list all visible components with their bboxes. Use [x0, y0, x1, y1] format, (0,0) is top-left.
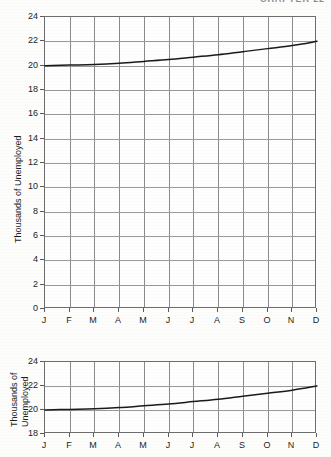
- y-axis-label-4: 4: [14, 255, 38, 264]
- y-axis-label-20: 20: [14, 61, 38, 70]
- x-axis-tick-mark: [242, 433, 243, 437]
- x-axis-tick-mark: [291, 433, 292, 437]
- x-axis-tick-mark: [316, 308, 317, 312]
- y-axis-label-14: 14: [14, 134, 38, 143]
- y-axis-label-12: 12: [14, 158, 38, 167]
- x-axis-label-a-3: A: [108, 316, 128, 325]
- data-curve: [45, 386, 317, 410]
- x-axis-label-s-8: S: [232, 316, 252, 325]
- y-axis-label-24: 24: [14, 12, 38, 21]
- x-axis-tick-mark: [69, 433, 70, 437]
- data-curve: [45, 41, 317, 65]
- x-axis-label-j-5: J: [158, 441, 178, 450]
- x-axis-label-m-4: M: [133, 316, 153, 325]
- x-axis-label-j-0: J: [34, 316, 54, 325]
- x-axis-tick-mark: [267, 308, 268, 312]
- x-axis-tick-mark: [93, 433, 94, 437]
- y-axis-tick-mark: [40, 186, 44, 187]
- y-axis-tick-mark: [40, 284, 44, 285]
- full-scale-chart: Thousands of Unemployed JFMAMJJASOND0246…: [0, 0, 331, 340]
- x-axis-label-d-11: D: [306, 316, 326, 325]
- x-axis-tick-mark: [168, 433, 169, 437]
- x-axis-tick-mark: [192, 308, 193, 312]
- x-axis-tick-mark: [44, 433, 45, 437]
- x-axis-tick-mark: [93, 308, 94, 312]
- plot-area-full: [44, 16, 316, 308]
- y-axis-tick-mark: [40, 162, 44, 163]
- x-axis-tick-mark: [69, 308, 70, 312]
- x-axis-tick-mark: [267, 433, 268, 437]
- y-axis-label-22: 22: [14, 381, 38, 390]
- x-axis-label-n-10: N: [281, 441, 301, 450]
- x-axis-tick-mark: [316, 433, 317, 437]
- series-line-unemployed: [45, 17, 317, 309]
- x-axis-tick-mark: [217, 308, 218, 312]
- y-axis-label-18: 18: [14, 85, 38, 94]
- y-axis-label-8: 8: [14, 207, 38, 216]
- y-axis-tick-mark: [40, 40, 44, 41]
- y-axis-label-0: 0: [14, 304, 38, 313]
- x-axis-tick-mark: [118, 308, 119, 312]
- x-axis-tick-mark: [143, 433, 144, 437]
- y-axis-label-24: 24: [14, 357, 38, 366]
- y-axis-tick-mark: [40, 409, 44, 410]
- y-axis-label-2: 2: [14, 280, 38, 289]
- y-axis-label-18: 18: [14, 429, 38, 438]
- y-axis-tick-mark: [40, 65, 44, 66]
- y-axis-tick-mark: [40, 235, 44, 236]
- x-axis-label-d-11: D: [306, 441, 326, 450]
- x-axis-tick-mark: [168, 308, 169, 312]
- plot-area-truncated: [44, 361, 316, 433]
- x-axis-label-s-8: S: [232, 441, 252, 450]
- y-axis-tick-mark: [40, 211, 44, 212]
- y-axis-tick-mark: [40, 308, 44, 309]
- x-axis-label-m-4: M: [133, 441, 153, 450]
- x-axis-tick-mark: [192, 433, 193, 437]
- y-axis-tick-mark: [40, 259, 44, 260]
- x-axis-tick-mark: [118, 433, 119, 437]
- y-axis-tick-mark: [40, 385, 44, 386]
- x-axis-label-o-9: O: [257, 441, 277, 450]
- truncated-scale-chart: Thousands ofUnemployed JFMAMJJASOND18202…: [0, 355, 331, 457]
- x-axis-label-a-3: A: [108, 441, 128, 450]
- x-axis-label-j-0: J: [34, 441, 54, 450]
- x-axis-label-j-6: J: [182, 441, 202, 450]
- x-axis-label-f-1: F: [59, 316, 79, 325]
- series-line-unemployed: [45, 362, 317, 434]
- y-axis-label-16: 16: [14, 109, 38, 118]
- x-axis-label-o-9: O: [257, 316, 277, 325]
- y-axis-label-22: 22: [14, 36, 38, 45]
- x-axis-label-a-7: A: [207, 441, 227, 450]
- x-axis-label-a-7: A: [207, 316, 227, 325]
- y-axis-tick-mark: [40, 89, 44, 90]
- x-axis-label-j-5: J: [158, 316, 178, 325]
- x-axis-label-n-10: N: [281, 316, 301, 325]
- x-axis-label-m-2: M: [83, 441, 103, 450]
- x-axis-tick-mark: [242, 308, 243, 312]
- y-axis-tick-mark: [40, 433, 44, 434]
- y-axis-tick-mark: [40, 113, 44, 114]
- running-head: CHAPTER 22: [260, 0, 325, 3]
- x-axis-tick-mark: [44, 308, 45, 312]
- y-axis-label-20: 20: [14, 405, 38, 414]
- y-axis-tick-mark: [40, 16, 44, 17]
- y-axis-label-6: 6: [14, 231, 38, 240]
- x-axis-label-f-1: F: [59, 441, 79, 450]
- y-axis-tick-mark: [40, 138, 44, 139]
- x-axis-label-m-2: M: [83, 316, 103, 325]
- x-axis-label-j-6: J: [182, 316, 202, 325]
- x-axis-tick-mark: [217, 433, 218, 437]
- y-axis-label-10: 10: [14, 182, 38, 191]
- x-axis-tick-mark: [291, 308, 292, 312]
- y-axis-tick-mark: [40, 361, 44, 362]
- x-axis-tick-mark: [143, 308, 144, 312]
